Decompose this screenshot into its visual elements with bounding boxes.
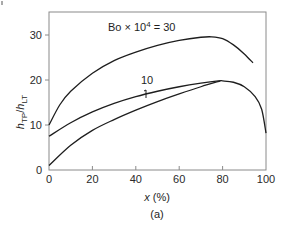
x-tick-label: 100 [257,173,275,185]
ticks: 0204060801000102030 [30,29,275,185]
y-tick-label: 20 [30,74,42,86]
x-tick-label: 20 [86,173,98,185]
x-tick-label: 80 [216,173,228,185]
x-axis-label: x (%) [143,191,170,203]
x-tick-label: 60 [173,173,185,185]
y-axis-label: hTP/hLT [14,95,29,129]
panel-label: (a) [150,208,163,220]
y-tick-label: 30 [30,29,42,41]
y-tick-label: 0 [36,164,42,176]
annotation-bo-30: Bo × 104 = 30 [108,20,175,33]
x-tick-label: 0 [46,173,52,185]
series-line-3 [49,81,220,166]
chart: 0204060801000102030 Bo × 104 = 30 10 hTP… [0,0,287,229]
x-tick-label: 40 [130,173,142,185]
curves [49,37,266,166]
annotation-10: 10 [141,74,153,86]
series-line-2 [49,81,266,137]
y-tick-label: 10 [30,119,42,131]
